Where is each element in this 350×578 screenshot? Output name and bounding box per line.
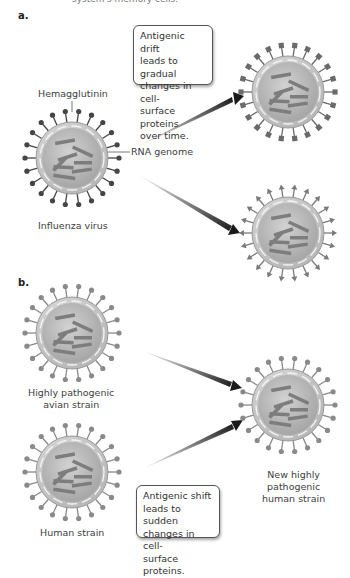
- avian-strain-virus: [22, 284, 121, 382]
- new-human-strain-virus: [238, 356, 337, 454]
- influenza-virus-drift-square: [238, 43, 337, 142]
- influenza-virus-original: [22, 109, 121, 207]
- drift-arrow-down: [135, 173, 232, 231]
- shift-arrow-human: [140, 424, 234, 470]
- influenza-virus-drift-arrow: [239, 184, 337, 282]
- drift-arrow-up: [135, 97, 233, 148]
- human-strain-virus: [22, 423, 121, 521]
- shift-arrow-avian: [140, 350, 232, 387]
